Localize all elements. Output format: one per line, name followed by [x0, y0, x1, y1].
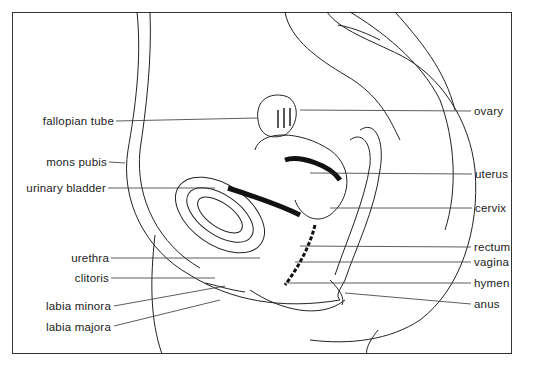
- label-uterus: uterus: [475, 167, 508, 181]
- label-ovary: ovary: [474, 104, 503, 118]
- label-labia-minora: labia minora: [46, 299, 111, 313]
- leader-rectum: [300, 246, 471, 247]
- leader-fallopian-tube: [116, 118, 258, 121]
- label-urinary-bladder: urinary bladder: [26, 181, 106, 195]
- label-labia-majora: labia majora: [46, 320, 111, 334]
- label-mons-pubis: mons pubis: [46, 155, 107, 169]
- leader-mons-pubis: [109, 162, 125, 163]
- label-clitoris: clitoris: [75, 271, 109, 285]
- label-vagina: vagina: [474, 255, 509, 269]
- abdominal-wall-outer: [127, 12, 340, 304]
- label-cervix: cervix: [475, 201, 506, 215]
- label-anus: anus: [474, 297, 500, 311]
- leader-anus: [345, 293, 471, 304]
- label-rectum: rectum: [474, 240, 510, 254]
- label-hymen: hymen: [474, 276, 510, 290]
- label-fallopian-tube: fallopian tube: [43, 114, 114, 128]
- leader-ovary: [300, 110, 471, 111]
- label-urethra: urethra: [71, 251, 109, 265]
- leader-labia-majora: [114, 300, 220, 326]
